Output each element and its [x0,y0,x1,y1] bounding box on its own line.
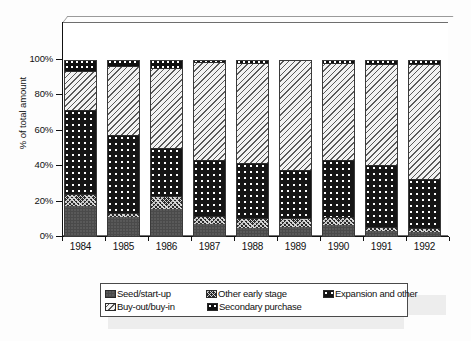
legend-swatch-buy-out-buy-in [105,303,116,311]
bar-column-1986[interactable] [150,60,183,237]
bar-depth-cap [237,60,269,61]
bar-stack [236,60,269,237]
legend-row: Buy-out/buy-in Secondary purchase [105,300,403,313]
bar-column-1988[interactable] [236,60,269,237]
bar-depth-side [268,60,269,236]
bar-segment-other-early-stage [280,218,311,227]
x-axis-tick-mark [234,237,235,241]
bar-column-1990[interactable] [322,60,355,237]
bar-segment-expansion-and-other [108,135,139,213]
y-axis-tick-mark [56,165,62,166]
x-axis-label-1986: 1986 [146,241,187,252]
bar-depth-cap [409,60,441,61]
bar-segment-buy-out-buy-in [151,68,182,148]
y-axis-tick-mark [56,130,62,131]
bar-stack [64,60,97,237]
bar-segment-buy-out-buy-in [280,60,311,170]
legend-item-seed-start-up[interactable]: Seed/start-up [105,287,206,300]
bar-stack [107,60,140,237]
bar-segment-expansion-and-other [409,179,440,228]
bar-depth-cap [323,60,355,61]
y-axis-tick-label: 80% [7,89,53,99]
y-axis-tick-mark [56,94,62,95]
bar-segment-buy-out-buy-in [409,64,440,179]
x-axis-label-1988: 1988 [232,241,273,252]
bar-segment-other-early-stage [108,213,139,217]
y-axis-title: % of total amount [18,43,28,183]
bar-segment-other-early-stage [151,196,182,209]
bar-segment-seed-start-up [323,225,354,237]
bar-stack [365,60,398,237]
bar-column-1992[interactable] [408,60,441,237]
bar-column-1991[interactable] [365,60,398,237]
bar-stack [322,60,355,237]
legend-item-expansion-and-other[interactable]: Expansion and other [323,287,403,300]
bar-column-1989[interactable] [279,60,312,237]
bar-depth-cap [194,60,226,61]
bar-segment-seed-start-up [151,209,182,236]
bar-segment-seed-start-up [366,231,397,236]
bar-segment-buy-out-buy-in [237,63,268,164]
legend-item-secondary-purchase[interactable]: Secondary purchase [207,300,325,313]
bar-stack [193,60,226,237]
bar-segment-secondary-purchase [65,60,96,71]
bar-segment-expansion-and-other [194,160,225,216]
bar-segment-other-early-stage [194,216,225,224]
bar-column-1984[interactable] [64,60,97,237]
y-axis-tick-mark [56,201,62,202]
bar-segment-expansion-and-other [237,163,268,218]
legend-item-buy-out-buy-in[interactable]: Buy-out/buy-in [105,300,207,313]
bar-depth-side [182,60,183,236]
bar-segment-buy-out-buy-in [366,64,397,165]
bar-stack [408,60,441,237]
bar-segment-other-early-stage [366,227,397,231]
x-axis-tick-mark [449,237,450,241]
bar-segment-expansion-and-other [280,170,311,219]
bar-segment-buy-out-buy-in [194,62,225,160]
bar-depth-cap [108,60,140,61]
bar-segment-buy-out-buy-in [108,66,139,135]
bar-column-1985[interactable] [107,60,140,237]
legend-row: Seed/start-up Other early stage Expansio… [105,287,403,300]
x-axis-label-1985: 1985 [103,241,144,252]
legend-label-expansion-and-other: Expansion and other [335,289,417,299]
legend-label-seed-start-up: Seed/start-up [117,289,171,299]
bar-segment-expansion-and-other [323,160,354,218]
bar-depth-side [311,60,312,236]
bar-depth-side [225,60,226,236]
bar-depth-side [139,60,140,236]
legend-swatch-expansion-and-other [323,290,334,298]
bar-column-1987[interactable] [193,60,226,237]
x-axis-tick-mark [191,237,192,241]
y-axis-tick-label: 0% [7,231,53,241]
bar-segment-seed-start-up [237,228,268,236]
y-axis-tick-label: 40% [7,160,53,170]
x-axis-tick-mark [148,237,149,241]
bar-segment-seed-start-up [108,217,139,236]
legend-swatch-other-early-stage [206,290,217,298]
legend-label-secondary-purchase: Secondary purchase [219,302,302,312]
bar-depth-cap [65,60,97,61]
bar-segment-seed-start-up [280,227,311,236]
bar-segment-secondary-purchase [151,60,182,68]
bars-layer [62,22,449,237]
x-axis-label-1987: 1987 [189,241,230,252]
x-axis-tick-labels: 198419851986198719881989199019911992 [62,241,449,257]
bar-segment-other-early-stage [237,218,268,228]
x-axis-tick-mark [406,237,407,241]
bar-depth-cap [280,60,312,61]
y-axis-tick-label: 100% [7,54,53,64]
chart-figure: 0%20%40%60%80%100% % of total amount 198… [0,0,471,341]
y-axis-tick-label: 20% [7,196,53,206]
bar-segment-buy-out-buy-in [323,63,354,159]
x-axis-tick-mark [320,237,321,241]
x-axis-label-1991: 1991 [361,241,402,252]
bar-segment-other-early-stage [323,217,354,224]
legend-item-other-early-stage[interactable]: Other early stage [206,287,323,300]
bar-segment-other-early-stage [409,228,440,232]
y-axis-tick-mark [56,59,62,60]
bar-stack [150,60,183,237]
x-axis-tick-mark [363,237,364,241]
bar-depth-side [96,60,97,236]
x-axis-tick-mark [277,237,278,241]
